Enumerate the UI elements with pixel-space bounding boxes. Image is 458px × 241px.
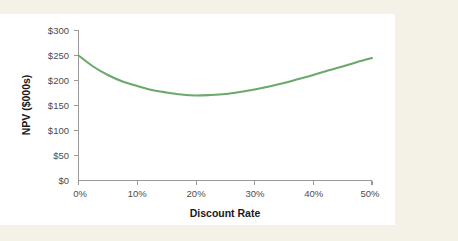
y-axis-ticks [74, 31, 79, 156]
y-tick-label-200: $200 [48, 75, 69, 86]
y-tick-label-50: $50 [53, 150, 69, 161]
y-tick-label-300: $300 [48, 25, 69, 36]
x-axis-title: Discount Rate [190, 207, 261, 219]
y-tick-label-250: $250 [48, 50, 69, 61]
chart-panel: $300 $250 $200 $150 $100 $50 $0 0% 10% 2… [0, 14, 395, 225]
npv-curve [79, 56, 373, 96]
x-tick-label-20: 20% [187, 188, 207, 199]
y-tick-label-100: $100 [48, 125, 69, 136]
y-axis-tick-labels: $300 $250 $200 $150 $100 $50 $0 [48, 25, 69, 186]
x-tick-label-10: 10% [128, 188, 148, 199]
y-tick-label-150: $150 [48, 100, 69, 111]
x-tick-label-30: 30% [245, 188, 265, 199]
y-tick-label-0: $0 [58, 175, 69, 186]
x-tick-label-50: 50% [360, 188, 380, 199]
page-background: $300 $250 $200 $150 $100 $50 $0 0% 10% 2… [0, 0, 458, 241]
y-axis-title: NPV ($000s) [20, 75, 32, 136]
x-axis-tick-labels: 0% 10% 20% 30% 40% 50% [73, 188, 380, 199]
x-tick-label-0: 0% [73, 188, 87, 199]
npv-vs-discount-rate-chart: $300 $250 $200 $150 $100 $50 $0 0% 10% 2… [0, 14, 395, 225]
x-tick-label-40: 40% [304, 188, 324, 199]
x-axis-ticks [79, 181, 373, 186]
